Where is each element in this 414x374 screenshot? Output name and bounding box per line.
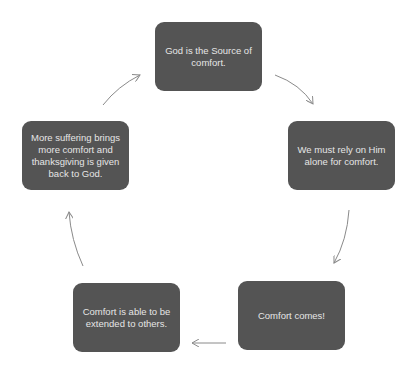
arrow-n5-n1 [103, 75, 140, 105]
arrow-n4-n5 [69, 212, 83, 266]
arrow-n2-n3 [334, 210, 349, 263]
node-label: God is the Source of comfort. [163, 45, 254, 69]
node-label: Comfort comes! [258, 310, 325, 322]
node-label: We must rely on Him alone for comfort. [296, 144, 387, 168]
node-extended-to-others: Comfort is able to be extended to others… [73, 283, 180, 352]
arrow-n1-n2 [275, 75, 313, 104]
node-more-suffering: More suffering brings more comfort and t… [22, 121, 129, 190]
node-label: Comfort is able to be extended to others… [81, 306, 172, 330]
node-source-of-comfort: God is the Source of comfort. [155, 22, 262, 91]
node-label: More suffering brings more comfort and t… [30, 132, 121, 180]
node-rely-on-him: We must rely on Him alone for comfort. [288, 121, 395, 190]
node-comfort-comes: Comfort comes! [238, 281, 345, 350]
